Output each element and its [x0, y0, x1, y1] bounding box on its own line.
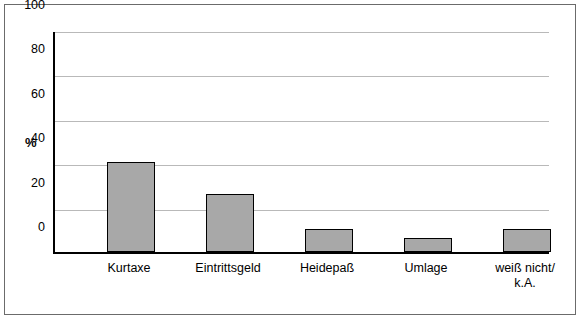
gridline-100: [55, 32, 549, 33]
x-tick-label-weiss-nicht-line2: k.A.: [453, 276, 582, 291]
chart-frame: % 0 20 40 60 80 100 Kurtaxe Eintrittsgel…: [4, 4, 576, 315]
y-tick-label-0: 0: [5, 220, 45, 234]
bar-umlage: [404, 238, 452, 252]
gridline-80: [55, 76, 549, 77]
bar-weiss-nicht: [503, 229, 551, 252]
bar-eintrittsgeld: [206, 194, 254, 252]
y-tick-label-60: 60: [5, 87, 45, 101]
gridline-60: [55, 121, 549, 122]
x-tick-label-weiss-nicht-line1: weiß nicht/: [453, 261, 582, 276]
bar-kurtaxe: [107, 162, 155, 252]
y-tick-label-80: 80: [5, 42, 45, 56]
y-tick-label-40: 40: [5, 131, 45, 145]
plot-inner: [55, 32, 549, 252]
y-tick-label-100: 100: [5, 0, 45, 12]
x-tick-label-weiss-nicht: weiß nicht/ k.A.: [453, 261, 582, 291]
bar-heidepass: [305, 229, 353, 252]
y-tick-label-20: 20: [5, 176, 45, 190]
plot-area: [53, 32, 549, 254]
